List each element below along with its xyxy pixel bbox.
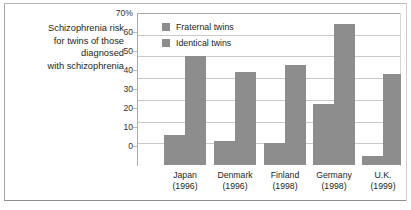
plot-border-top (137, 13, 401, 14)
y-tick-label: 0 (103, 142, 133, 151)
bar-identical-japan (185, 56, 206, 165)
gridline-40 (138, 78, 401, 79)
bar-fraternal-uk (362, 156, 383, 165)
y-tick-label: 30 (103, 85, 133, 94)
bar-identical-denmark (235, 72, 256, 165)
y-tick-label: 50 (103, 47, 133, 56)
bar-fraternal-japan (164, 135, 185, 165)
bar-identical-germany (334, 24, 355, 165)
legend-swatch-icon (162, 39, 170, 47)
y-tick-label: 60 (103, 28, 133, 37)
frame-border-top (4, 3, 407, 4)
bar-fraternal-denmark (214, 141, 235, 165)
gridline-50 (138, 56, 401, 57)
y-tick-label: 10 (103, 123, 133, 132)
gridline-30 (138, 100, 401, 101)
bar-identical-finland (285, 65, 306, 165)
x-label-year: (1999) (351, 181, 411, 192)
bar-fraternal-finland (264, 143, 285, 165)
chart-legend: Fraternal twins Identical twins (162, 20, 234, 52)
legend-label: Identical twins (176, 39, 231, 48)
y-tick-label: 20 (103, 104, 133, 113)
legend-swatch-icon (162, 23, 170, 31)
chart-figure: Schizophrenia risk for twins of those di… (0, 0, 411, 210)
frame-border-left (4, 3, 5, 201)
bar-fraternal-germany (313, 104, 334, 165)
gridline-20 (138, 122, 401, 123)
x-tick-label-uk: U.K. (1999) (351, 170, 411, 193)
plot-area: Fraternal twins Identical twins (137, 13, 401, 166)
bar-identical-uk (383, 74, 401, 165)
frame-border-bottom (4, 200, 407, 201)
x-label-name: U.K. (351, 170, 411, 181)
y-tick-label: 70% (103, 9, 133, 18)
legend-item-identical: Identical twins (162, 36, 234, 50)
y-tick-label: 40 (103, 66, 133, 75)
legend-item-fraternal: Fraternal twins (162, 20, 234, 34)
legend-label: Fraternal twins (176, 23, 234, 32)
